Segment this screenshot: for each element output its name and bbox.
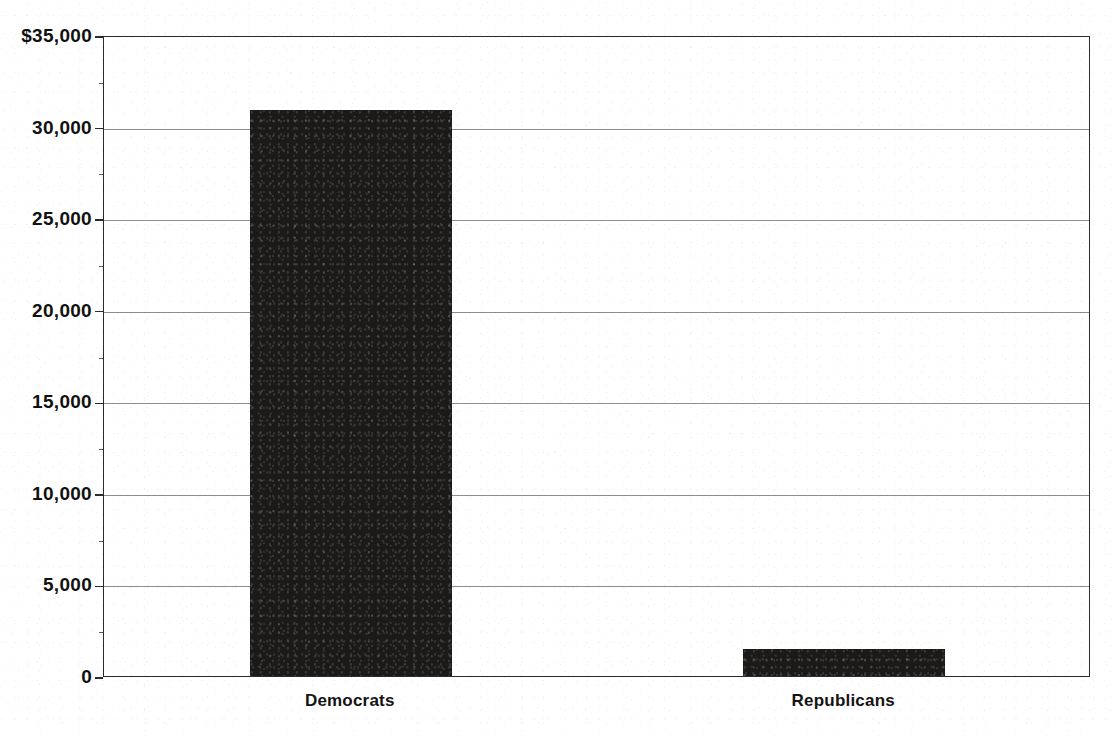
y-axis-tick <box>95 403 103 405</box>
y-axis-tick <box>95 36 103 38</box>
y-axis-minor-tick <box>99 449 103 450</box>
bar-republicans <box>743 649 945 676</box>
y-axis-label: 30,000 <box>32 118 92 137</box>
y-axis-tick <box>95 494 103 496</box>
y-axis-label: 15,000 <box>32 392 92 411</box>
y-axis-label: 20,000 <box>32 301 92 320</box>
y-axis-minor-tick <box>99 358 103 359</box>
bar-democrats <box>250 110 452 676</box>
y-axis-label: 0 <box>81 667 92 686</box>
x-axis-label-democrats: Democrats <box>305 692 395 709</box>
y-axis-minor-tick <box>99 541 103 542</box>
y-axis-tick <box>95 219 103 221</box>
y-axis-label: $35,000 <box>21 26 92 45</box>
y-axis-tick <box>95 311 103 313</box>
y-axis-minor-tick <box>99 632 103 633</box>
plot-area <box>103 36 1090 677</box>
y-axis-minor-tick <box>99 266 103 267</box>
y-axis-minor-tick <box>99 83 103 84</box>
x-axis-label-republicans: Republicans <box>792 692 895 709</box>
y-axis-minor-tick <box>99 174 103 175</box>
x-axis: DemocratsRepublicans <box>103 692 1090 722</box>
y-axis: $35,00030,00025,00020,00015,00010,0005,0… <box>0 36 92 677</box>
y-axis-label: 5,000 <box>43 575 92 594</box>
y-axis-label: 25,000 <box>32 209 92 228</box>
y-axis-tick <box>95 586 103 588</box>
y-axis-tick <box>95 677 103 679</box>
bar-chart-figure: $35,00030,00025,00020,00015,00010,0005,0… <box>0 0 1113 736</box>
y-axis-tick <box>95 128 103 130</box>
y-axis-label: 10,000 <box>32 484 92 503</box>
